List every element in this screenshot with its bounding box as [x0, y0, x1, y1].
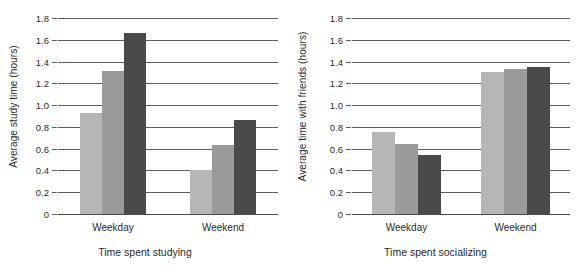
y-axis-title-text: Average study time (hours) [8, 45, 19, 167]
y-tick-mark [346, 62, 351, 63]
x-tick-label-weekday: Weekday [92, 222, 134, 233]
y-tick-label: 1.0 [330, 100, 343, 111]
figure-two-bar-charts: Average study time (hours) 00.20.40.60.8… [0, 0, 581, 272]
y-tick-label: 0 [44, 209, 49, 220]
y-tick-mark [52, 170, 57, 171]
bar-group-weekend: Weekend [168, 18, 278, 214]
x-axis-line [58, 214, 278, 215]
bar-weekend-series-3 [234, 120, 256, 214]
y-tick-label: 0.4 [330, 165, 343, 176]
y-tick-label: 1.2 [330, 78, 343, 89]
y-tick-mark [52, 127, 57, 128]
y-tick-mark [346, 127, 351, 128]
y-tick-label: 0.6 [330, 144, 343, 155]
y-tick-mark [52, 105, 57, 106]
y-tick-label: 1.8 [330, 13, 343, 24]
bar-groups-studying: Weekday Weekend [58, 18, 278, 214]
x-tick-label-weekday: Weekday [386, 222, 428, 233]
bars-weekend [190, 18, 256, 214]
bar-weekday-series-2 [395, 144, 418, 214]
x-axis-line [352, 214, 570, 215]
y-tick-label: 0.8 [330, 122, 343, 133]
y-tick-mark [346, 192, 351, 193]
y-tick-mark [52, 149, 57, 150]
y-tick-mark [346, 170, 351, 171]
y-tick-label: 1.2 [36, 78, 49, 89]
x-axis-title-socializing: Time spent socializing [290, 246, 581, 258]
bar-group-weekday: Weekday [352, 18, 461, 214]
y-axis-title-socializing: Average time with friends (hours) [294, 0, 312, 212]
y-tick-mark [52, 214, 57, 215]
bar-weekday-series-1 [80, 113, 102, 214]
y-tick-mark [346, 83, 351, 84]
y-tick-label: 0.2 [330, 187, 343, 198]
bar-weekend-series-2 [212, 145, 234, 214]
y-tick-label: 1.4 [36, 57, 49, 68]
y-tick-mark [52, 62, 57, 63]
y-tick-label: 1.6 [36, 35, 49, 46]
y-tick-label: 1.6 [330, 35, 343, 46]
y-axis-title-text: Average time with friends (hours) [298, 31, 309, 181]
bar-weekend-series-3 [527, 67, 550, 214]
bar-weekend-series-2 [504, 69, 527, 214]
y-tick-label: 0.2 [36, 187, 49, 198]
y-tick-mark [52, 18, 57, 19]
y-tick-label: 0 [338, 209, 343, 220]
y-tick-label: 0.8 [36, 122, 49, 133]
bar-group-weekday: Weekday [58, 18, 168, 214]
bar-groups-socializing: Weekday Weekend [352, 18, 570, 214]
bar-weekend-series-1 [190, 170, 212, 214]
y-axis-title-studying: Average study time (hours) [4, 0, 22, 212]
bar-group-weekend: Weekend [461, 18, 570, 214]
x-tick-label-weekend: Weekend [494, 222, 536, 233]
bars-weekday [372, 18, 441, 214]
bar-weekday-series-2 [102, 71, 124, 214]
y-tick-mark [346, 149, 351, 150]
y-tick-mark [346, 18, 351, 19]
y-tick-mark [346, 214, 351, 215]
bar-weekend-series-1 [481, 72, 504, 214]
y-tick-mark [346, 40, 351, 41]
plot-area-socializing: 00.20.40.60.81.01.21.41.61.8 Weekday [352, 18, 570, 214]
x-tick-label-weekend: Weekend [202, 222, 244, 233]
y-tick-label: 0.6 [36, 144, 49, 155]
y-tick-label: 1.0 [36, 100, 49, 111]
plot-area-studying: 00.20.40.60.81.01.21.41.61.8 Weekday [58, 18, 278, 214]
chart-panel-socializing: Average time with friends (hours) 00.20.… [290, 0, 581, 272]
bar-weekday-series-3 [124, 33, 146, 214]
bar-weekday-series-1 [372, 132, 395, 214]
bars-weekday [80, 18, 146, 214]
y-tick-mark [52, 83, 57, 84]
y-tick-mark [346, 105, 351, 106]
y-tick-label: 0.4 [36, 165, 49, 176]
bars-weekend [481, 18, 550, 214]
y-tick-mark [52, 40, 57, 41]
y-tick-label: 1.4 [330, 57, 343, 68]
bar-weekday-series-3 [418, 155, 441, 214]
chart-panel-studying: Average study time (hours) 00.20.40.60.8… [0, 0, 290, 272]
y-tick-mark [52, 192, 57, 193]
x-axis-title-studying: Time spent studying [0, 246, 290, 258]
y-tick-label: 1.8 [36, 13, 49, 24]
